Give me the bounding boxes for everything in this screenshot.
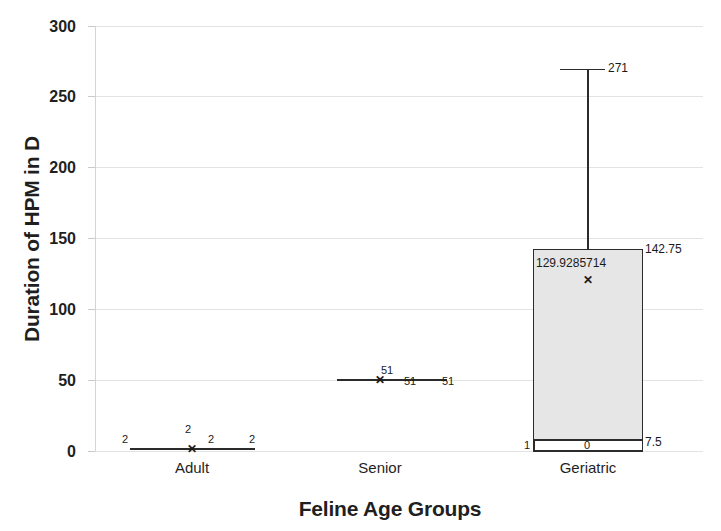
y-tick-label-300: 300: [22, 19, 76, 35]
geriatric-mean-label: 129.9285714: [536, 257, 606, 269]
adult-mean-marker: ✕: [187, 443, 197, 455]
geriatric-q1-label: 7.5: [645, 436, 662, 448]
category-label-senior: Senior: [300, 460, 460, 475]
geriatric-mean-marker: ✕: [583, 274, 593, 286]
x-axis-title: Feline Age Groups: [90, 497, 690, 521]
senior-max-label: 51: [442, 376, 454, 387]
y-tick-50: [88, 380, 95, 381]
category-label-adult: Adult: [112, 460, 272, 475]
geriatric-min-label: 1: [524, 440, 530, 451]
gridline-150: [95, 238, 703, 239]
y-axis-title: Duration of HPM in D: [20, 89, 44, 389]
adult-q3-label: 2: [208, 434, 214, 445]
y-tick-100: [88, 309, 95, 310]
y-tick-250: [88, 96, 95, 97]
adult-min-label: 2: [122, 434, 128, 445]
y-tick-150: [88, 238, 95, 239]
gridline-200: [95, 167, 703, 168]
gridline-300: [95, 26, 703, 27]
y-tick-label-0: 0: [22, 444, 76, 460]
y-tick-200: [88, 167, 95, 168]
geriatric-lower-right-edge: [642, 439, 644, 451]
adult-median-label: 2: [185, 424, 191, 435]
senior-q3-label: 51: [404, 376, 416, 387]
y-axis-line: [95, 26, 96, 451]
category-label-geriatric: Geriatric: [508, 460, 668, 475]
geriatric-median-label: 0: [584, 440, 590, 451]
boxplot-chart: 300 250 200 150 100 50 0 Duration of HPM…: [0, 0, 721, 531]
senior-flat-line: [337, 379, 447, 381]
gridline-250: [95, 96, 703, 97]
geriatric-max-cap: [560, 69, 605, 71]
geriatric-q3-label: 142.75: [645, 243, 682, 255]
y-tick-300: [88, 26, 95, 27]
geriatric-upper-whisker: [587, 69, 589, 259]
y-tick-0: [88, 451, 95, 452]
adult-max-label: 2: [249, 434, 255, 445]
geriatric-lower-left-edge: [533, 439, 535, 451]
senior-median-label: 51: [381, 365, 393, 376]
geriatric-max-label: 271: [608, 62, 628, 74]
